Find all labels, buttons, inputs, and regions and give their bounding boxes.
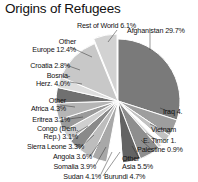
chart-figure: Origins of Refugees Rest of World 6.1% O… [0,0,198,182]
label-iraq: Iraq 4. [163,108,198,116]
label-afghanistan: Afghanistan 29.7% [127,27,198,35]
label-eritrea: Eritrea 3.1% [0,116,70,124]
label-other-asia: Other Asia 5.5% [122,155,172,171]
label-angola: Angola 3.6% [0,153,92,161]
label-somalia: Somalia 3.9% [0,163,96,171]
label-sudan: Sudan 4.1% [0,173,101,181]
label-rest-of-world: Rest of World 6.1% [58,22,136,30]
label-palestine: Palestine 0.9% [137,146,198,154]
label-sierra-leone: Sierra Leone 3.3% [0,143,84,151]
label-other-africa: Other Africa 4.3% [0,97,66,113]
label-vietnam: Vietnam [151,126,198,134]
label-croatia: Croatia 2.8% [0,62,70,70]
label-burundi: Burundi 4.7% [104,173,174,181]
label-other-europe: Other Europe 12.4% [0,38,76,54]
label-congo: Congo (Dem. Rep.) 3.1% [0,125,78,141]
label-e-timor: E. Timor 1. [143,137,198,145]
label-bosnia-herz: Bosnia- Herz. 4.0% [0,72,70,88]
